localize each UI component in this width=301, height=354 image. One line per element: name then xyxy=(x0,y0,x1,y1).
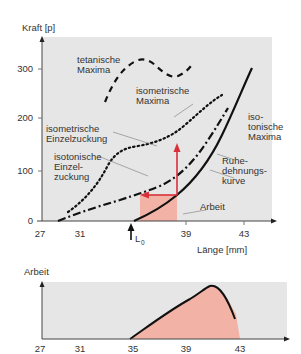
bottom-x-tick-label: 27 xyxy=(35,343,46,354)
label-tetanic: Maxima xyxy=(77,64,111,75)
x-tick-label: 39 xyxy=(181,228,192,239)
label-isometric-maxima: Maxima xyxy=(136,95,170,106)
y-tick-label: 100 xyxy=(17,165,33,176)
y-axis-label: Kraft [p] xyxy=(22,22,55,33)
x-axis-arrow-icon xyxy=(271,219,277,224)
l0-marker: L 0 xyxy=(128,223,146,246)
bottom-chart: Arbeit 27 31 35 39 43 xyxy=(24,266,290,354)
y-tick-label: 200 xyxy=(17,112,33,123)
bottom-y-axis-label: Arbeit xyxy=(24,266,49,277)
y-tick-label: 300 xyxy=(17,63,33,74)
x-tick-label: 27 xyxy=(35,228,46,239)
bottom-x-tick-label: 39 xyxy=(181,343,192,354)
bottom-x-tick-label: 35 xyxy=(128,343,139,354)
label-isometric-twitch: Einzelzuckung xyxy=(46,133,107,144)
y-tick-label: 0 xyxy=(28,215,33,226)
bottom-x-tick-label: 31 xyxy=(75,343,86,354)
label-resting-curve: kurve xyxy=(222,175,245,186)
up-arrow-icon xyxy=(128,223,135,231)
label-isotonic-twitch: zuckung xyxy=(54,171,89,182)
l0-label: L xyxy=(135,233,140,244)
top-chart: 300 200 100 0 27 31 39 43 L 0 Kraft [p] … xyxy=(17,22,283,255)
x-tick-label: 43 xyxy=(239,228,250,239)
label-isotonic-maxima: Maxima xyxy=(248,131,282,142)
l0-subscript: 0 xyxy=(141,239,145,246)
bottom-x-tick-label: 43 xyxy=(235,343,246,354)
figure: 300 200 100 0 27 31 39 43 L 0 Kraft [p] … xyxy=(0,0,301,354)
x-axis-label: Länge [mm] xyxy=(197,244,247,255)
label-work: Arbeit xyxy=(200,201,225,212)
x-tick-label: 31 xyxy=(75,228,86,239)
